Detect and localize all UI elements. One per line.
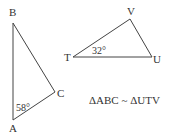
vertex-label-a: A <box>9 122 17 134</box>
angle-label-a: 58° <box>16 102 30 113</box>
angle-label-t: 32° <box>92 45 106 56</box>
vertex-label-c: C <box>57 87 64 99</box>
vertex-label-v: V <box>127 5 135 17</box>
vertex-label-b: B <box>9 6 16 18</box>
triangle-tuv <box>73 19 152 57</box>
vertex-label-t: T <box>64 51 71 63</box>
similar-triangles-diagram: B A C 58° T U V 32° ΔABC ~ ΔUTV <box>0 0 175 135</box>
vertex-label-u: U <box>153 53 161 65</box>
similarity-statement: ΔABC ~ ΔUTV <box>89 94 160 106</box>
